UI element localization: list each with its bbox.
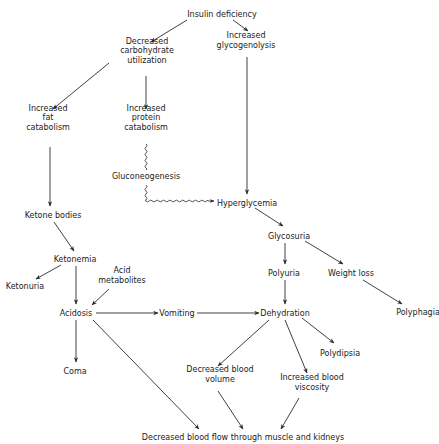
node-ketone-bodies: Ketone bodies — [25, 211, 82, 220]
edge-weight_loss-to-polyphagia — [363, 280, 402, 304]
edge-decreased_carb-to-increased_fat_catabolism — [53, 63, 109, 109]
node-acidosis: Acidosis — [60, 309, 92, 318]
node-label-line: metabolites — [98, 276, 145, 285]
node-label-line: Ketone bodies — [25, 211, 82, 220]
edge-increased_blood_viscosity-to-decreased_blood_flow — [281, 398, 299, 429]
edge-hyperglycemia-to-glycosuria — [255, 208, 283, 226]
edge-ketonemia-to-ketonuria — [36, 265, 61, 279]
node-gluconeogenesis: Gluconeogenesis — [112, 172, 180, 181]
node-label-line: utilization — [127, 56, 166, 65]
node-increased-fat-catabolism: Increasedfatcatabolism — [26, 104, 70, 132]
flowchart-canvas: Insulin deficiencyDecreasedcarbohydrateu… — [0, 0, 439, 444]
node-label-line: Increased blood — [280, 373, 344, 382]
node-increased-glycogenolysis: Increasedglycogenolysis — [217, 31, 276, 50]
node-weight-loss: Weight loss — [328, 269, 374, 278]
node-decreased-blood-volume: Decreased bloodvolume — [186, 365, 253, 384]
node-label-line: Gluconeogenesis — [112, 172, 180, 181]
node-polyuria: Polyuria — [268, 269, 300, 278]
node-label-line: Glycosuria — [268, 232, 310, 241]
node-label-line: viscosity — [295, 383, 330, 392]
edge-increased_protein_catabolism-to-gluconeogenesis — [145, 144, 147, 170]
node-label-line: Coma — [63, 367, 86, 376]
edge-decreased_blood_volume-to-decreased_blood_flow — [218, 391, 243, 429]
node-label-line: Acid — [113, 266, 130, 275]
node-label-line: catabolism — [26, 123, 70, 132]
node-polydipsia: Polydipsia — [320, 349, 360, 358]
node-label-line: carbohydrate — [120, 46, 174, 55]
node-label-line: Decreased — [126, 37, 169, 46]
node-decreased-blood-flow: Decreased blood flow through muscle and … — [142, 433, 344, 442]
node-label-line: Dehydration — [260, 309, 309, 318]
node-label-line: volume — [205, 375, 235, 384]
edge-ketone_bodies-to-ketonemia — [54, 222, 74, 251]
edge-gluconeogenesis-to-hyperglycemia — [145, 185, 214, 202]
node-polyphagia: Polyphagia — [396, 308, 439, 317]
node-ketonemia: Ketonemia — [54, 255, 97, 264]
edge-dehydration-to-polydipsia — [302, 318, 334, 343]
node-increased-blood-viscosity: Increased bloodviscosity — [280, 373, 344, 392]
node-dehydration: Dehydration — [260, 309, 309, 318]
node-acid-metabolites: Acidmetabolites — [98, 266, 145, 285]
edge-glycosuria-to-weight_loss — [305, 241, 343, 264]
edge-acidosis-to-decreased_blood_flow — [93, 320, 199, 429]
node-label-line: Decreased blood — [186, 365, 253, 374]
node-label-line: Polyphagia — [396, 308, 439, 317]
node-increased-protein-catabolism: Increasedproteincatabolism — [124, 104, 168, 132]
node-ketonuria: Ketonuria — [6, 282, 44, 291]
node-label-line: Decreased blood flow through muscle and … — [142, 433, 344, 442]
node-label-line: Insulin deficiency — [187, 10, 257, 19]
node-glycosuria: Glycosuria — [268, 232, 310, 241]
node-label-line: Ketonemia — [54, 255, 97, 264]
edge-dehydration-to-decreased_blood_volume — [218, 320, 269, 366]
nodes-layer: Insulin deficiencyDecreasedcarbohydrateu… — [6, 10, 439, 442]
node-coma: Coma — [63, 367, 86, 376]
node-label-line: Weight loss — [328, 269, 374, 278]
node-label-line: Increased — [127, 104, 166, 113]
node-label-line: Increased — [227, 31, 266, 40]
edge-insulin_deficiency-to-increased_glycogenolysis — [233, 20, 248, 31]
node-label-line: Hyperglycemia — [217, 199, 277, 208]
node-label-line: Ketonuria — [6, 282, 44, 291]
node-label-line: Vomiting — [159, 309, 194, 318]
node-label-line: fat — [43, 113, 54, 122]
node-label-line: Polyuria — [268, 269, 300, 278]
edge-dehydration-to-increased_blood_viscosity — [285, 320, 307, 373]
node-insulin-deficiency: Insulin deficiency — [187, 10, 257, 19]
node-vomiting: Vomiting — [159, 309, 194, 318]
node-label-line: Polydipsia — [320, 349, 360, 358]
node-label-line: Acidosis — [60, 309, 92, 318]
node-hyperglycemia: Hyperglycemia — [217, 199, 277, 208]
node-decreased-carb: Decreasedcarbohydrateutilization — [120, 37, 174, 65]
node-label-line: protein — [132, 113, 160, 122]
edge-acid_metabolites-to-acidosis — [92, 289, 109, 305]
node-label-line: catabolism — [124, 123, 168, 132]
node-label-line: glycogenolysis — [217, 41, 276, 50]
node-label-line: Increased — [29, 104, 68, 113]
